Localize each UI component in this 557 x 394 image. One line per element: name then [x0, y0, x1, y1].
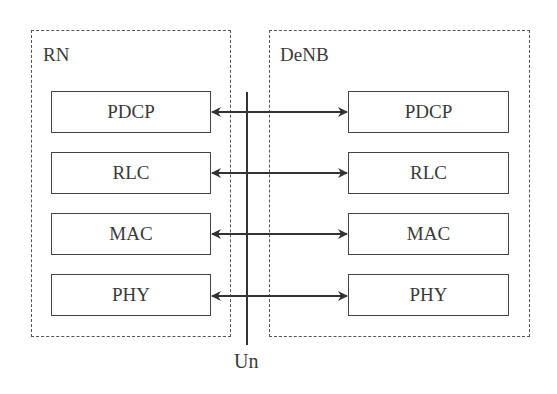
un-interface-label: Un	[234, 350, 258, 373]
connection-lines	[0, 0, 557, 394]
